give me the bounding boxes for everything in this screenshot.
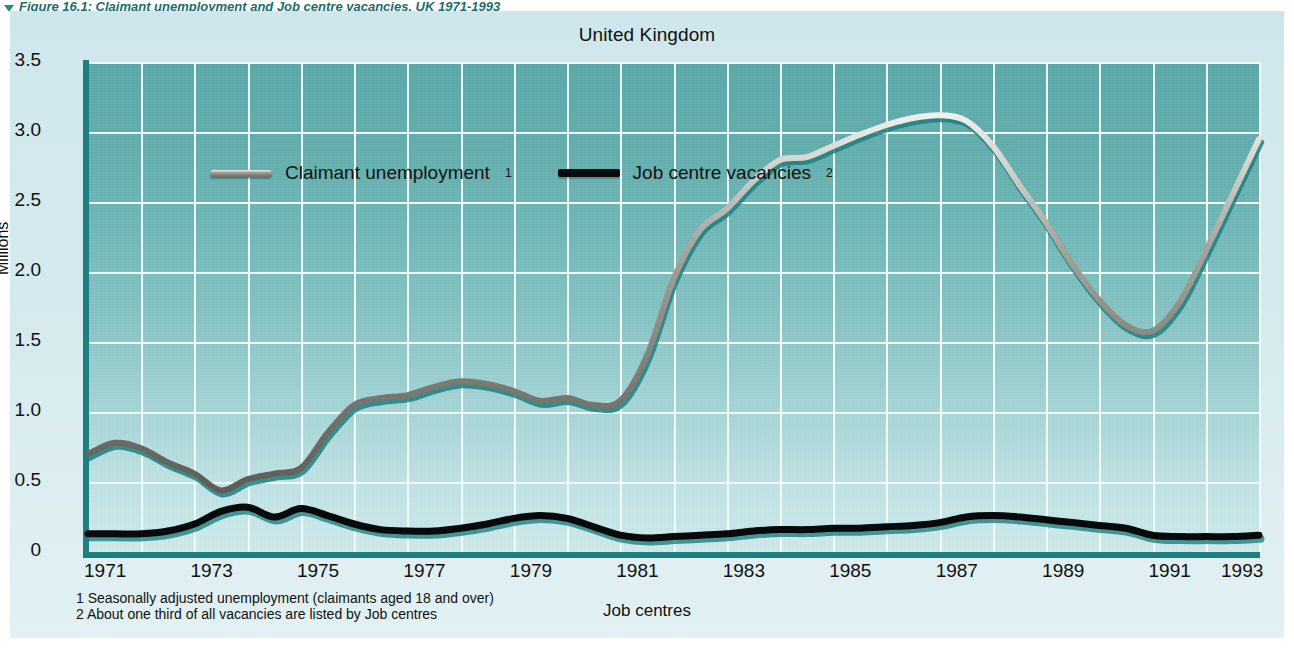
y-tick-label: 3.5 [0, 49, 41, 71]
y-tick-label: 0.5 [0, 469, 41, 491]
x-tick-label: 1993 [1221, 560, 1263, 582]
y-tick-label: 3.0 [0, 119, 41, 141]
x-tick-label: 1991 [1149, 560, 1191, 582]
chart-title: United Kingdom [0, 24, 1294, 46]
vacancies-line [88, 507, 1259, 538]
x-tick-label: 1977 [403, 560, 445, 582]
legend-label-unemployment: Claimant unemployment [285, 162, 490, 184]
x-tick-label: 1989 [1042, 560, 1084, 582]
gridline-vertical [1259, 62, 1261, 552]
legend-item-unemployment[interactable]: Claimant unemployment1 [210, 162, 512, 184]
footnote-2: 2 About one third of all vacancies are l… [76, 606, 494, 622]
x-tick-label: 1973 [190, 560, 232, 582]
legend: Claimant unemployment1 Job centre vacanc… [210, 162, 833, 184]
footnotes: 1 Seasonally adjusted unemployment (clai… [76, 590, 494, 622]
x-tick-label: 1975 [297, 560, 339, 582]
legend-label-vacancies: Job centre vacancies [633, 162, 812, 184]
x-tick-label: 1983 [723, 560, 765, 582]
y-tick-label: 1.0 [0, 399, 41, 421]
x-tick-label: 1971 [84, 560, 126, 582]
y-tick-label: 2.5 [0, 189, 41, 211]
x-tick-label: 1981 [616, 560, 658, 582]
figure-caption: Figure 16.1: Claimant unemployment and J… [0, 0, 1294, 11]
x-tick-label: 1987 [936, 560, 978, 582]
y-tick-label: 1.5 [0, 329, 41, 351]
x-tick-label: 1979 [510, 560, 552, 582]
footnote-1: 1 Seasonally adjusted unemployment (clai… [76, 590, 494, 606]
x-axis-line [83, 552, 1260, 558]
y-tick-label: 0 [0, 539, 41, 561]
legend-note-vacancies: 2 [826, 166, 833, 180]
legend-swatch-unemployment-icon [210, 170, 272, 177]
legend-note-unemployment: 1 [505, 166, 512, 180]
y-axis-title: Millions [0, 222, 12, 275]
legend-swatch-vacancies-icon [558, 169, 620, 177]
x-tick-label: 1985 [829, 560, 871, 582]
legend-item-vacancies[interactable]: Job centre vacancies2 [558, 162, 833, 184]
series-layer [88, 62, 1259, 552]
plot-area: Claimant unemployment1 Job centre vacanc… [88, 62, 1259, 552]
figure-caption-text: Figure 16.1: Claimant unemployment and J… [19, 0, 500, 11]
